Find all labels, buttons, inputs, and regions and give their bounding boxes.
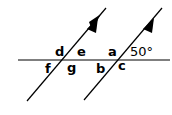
angle-label-c: c <box>118 58 126 73</box>
angle-label-d: d <box>55 44 64 59</box>
angle-label-f: f <box>45 61 51 76</box>
parallel-lines-diagram: d e f g a b c 50° <box>0 0 172 115</box>
angle-label-g: g <box>67 60 76 75</box>
angle-label-a: a <box>108 44 117 59</box>
given-angle-label: 50° <box>130 44 153 59</box>
angle-label-e: e <box>77 44 86 59</box>
arrowhead-right-fill-icon <box>143 18 154 33</box>
angle-label-b: b <box>96 61 105 76</box>
